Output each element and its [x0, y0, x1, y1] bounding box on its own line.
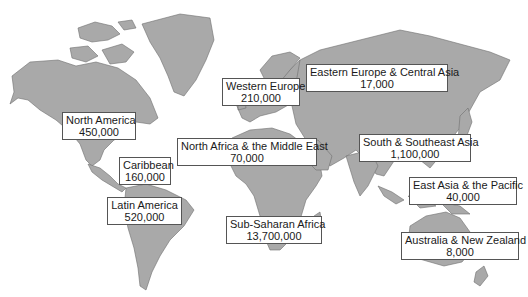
region-value: 1,100,000 [363, 148, 467, 160]
region-name: South & Southeast Asia [363, 136, 467, 148]
region-name: Sub-Saharan Africa [230, 218, 318, 230]
region-name: North America [66, 114, 132, 126]
greenland [142, 14, 214, 96]
region-label-caribbean: Caribbean 160,000 [119, 157, 171, 185]
region-label-eastern-europe-central-asia: Eastern Europe & Central Asia 17,000 [306, 64, 448, 92]
region-value: 40,000 [413, 191, 513, 203]
region-name: Western Europe [226, 80, 296, 92]
region-label-south-southeast-asia: South & Southeast Asia 1,100,000 [359, 134, 471, 162]
region-value: 8,000 [405, 246, 515, 258]
region-value: 70,000 [181, 152, 313, 164]
region-value: 520,000 [111, 211, 178, 223]
region-label-north-america: North America 450,000 [62, 112, 136, 140]
region-value: 210,000 [226, 92, 296, 104]
region-name: East Asia & the Pacific [413, 179, 513, 191]
region-label-east-asia-pacific: East Asia & the Pacific 40,000 [409, 177, 517, 205]
region-name: Australia & New Zealand [405, 234, 515, 246]
region-name: North Africa & the Middle East [181, 140, 313, 152]
region-value: 13,700,000 [230, 230, 318, 242]
region-value: 160,000 [123, 171, 167, 183]
region-label-latin-america: Latin America 520,000 [107, 197, 182, 225]
region-label-australia-new-zealand: Australia & New Zealand 8,000 [401, 232, 519, 260]
new-zealand-land [474, 266, 488, 286]
region-value: 450,000 [66, 126, 132, 138]
region-label-western-europe: Western Europe 210,000 [222, 78, 300, 106]
region-label-sub-saharan-africa: Sub-Saharan Africa 13,700,000 [226, 216, 322, 244]
region-name: Caribbean [123, 159, 167, 171]
region-value: 17,000 [310, 78, 444, 90]
region-name: Latin America [111, 199, 178, 211]
region-name: Eastern Europe & Central Asia [310, 66, 444, 78]
canadian-arctic-islands [70, 20, 136, 64]
region-label-north-africa-middle-east: North Africa & the Middle East 70,000 [177, 138, 317, 166]
